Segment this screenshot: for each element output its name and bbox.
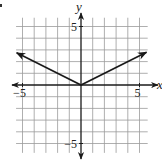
y-tick-label: −5 (64, 137, 77, 151)
bullet-mark (0, 4, 2, 7)
x-tick-label: −5 (13, 86, 26, 100)
x-tick-label: 5 (135, 86, 141, 100)
coordinate-graph: x y −555−5 (0, 0, 162, 163)
y-axis-label: y (74, 0, 82, 14)
y-tick-label: 5 (71, 20, 77, 34)
x-axis-label: x (156, 77, 162, 92)
